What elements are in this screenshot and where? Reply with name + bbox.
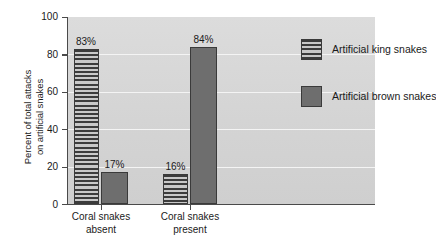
- bar-value-label-brown-coral-present: 84%: [174, 35, 234, 45]
- legend-swatch-solid-icon: [301, 86, 322, 107]
- bar-brown-snakes-coral-absent[interactable]: [101, 172, 128, 204]
- bar-brown-snakes-coral-present[interactable]: [190, 47, 217, 204]
- bar-king-snakes-coral-present[interactable]: [163, 174, 188, 204]
- x-category-label-coral-present: Coral snakes present: [130, 211, 250, 236]
- x-category-coral-present-line-2: present: [130, 224, 250, 237]
- bar-value-label-king-coral-present: 16%: [146, 162, 206, 172]
- y-axis-line: [67, 17, 68, 205]
- x-tick-mark-coral-present: [190, 205, 191, 210]
- bar-value-label-brown-coral-absent: 17%: [85, 160, 145, 170]
- legend-label-king-snakes: Artificial king snakes: [332, 44, 427, 55]
- x-tick-mark-coral-absent: [101, 205, 102, 210]
- legend-label-brown-snakes: Artificial brown snakes: [332, 91, 436, 102]
- x-category-coral-present-line-1: Coral snakes: [130, 211, 250, 224]
- y-axis-title-line-1: Percent of total attacks: [22, 70, 34, 164]
- y-tick-label-80: 80: [18, 50, 58, 60]
- legend-swatch-striped-icon: [301, 39, 322, 60]
- y-tick-label-20: 20: [18, 162, 58, 172]
- y-tick-label-60: 60: [18, 87, 58, 97]
- y-tick-label-100: 100: [18, 12, 58, 22]
- gridline-40: [68, 129, 375, 130]
- bar-king-snakes-coral-absent[interactable]: [74, 49, 99, 204]
- y-tick-label-40: 40: [18, 125, 58, 135]
- bar-value-label-king-coral-absent: 83%: [56, 37, 116, 47]
- legend-item-brown-snakes[interactable]: Artificial brown snakes: [301, 86, 436, 107]
- x-axis-line: [67, 204, 375, 205]
- legend-item-king-snakes[interactable]: Artificial king snakes: [301, 39, 427, 60]
- y-tick-label-0: 0: [18, 200, 58, 210]
